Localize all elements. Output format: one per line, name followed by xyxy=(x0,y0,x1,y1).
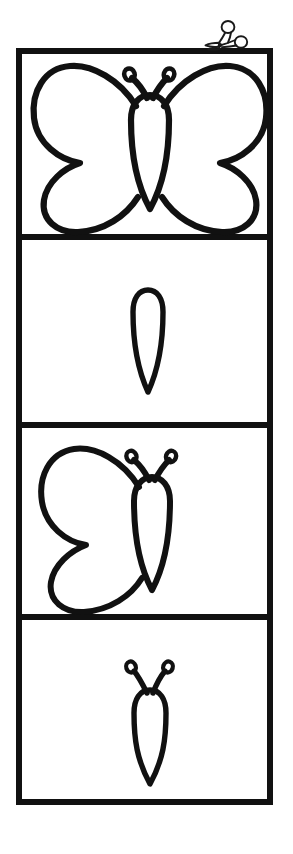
butterfly-body xyxy=(134,690,166,784)
left-antenna-tip xyxy=(125,449,138,463)
left-wing-outline xyxy=(34,66,138,232)
worksheet-page: Butterfly Cut-Out Worksheet xyxy=(0,0,293,854)
right-antenna-tip xyxy=(162,67,176,82)
left-antenna-tip xyxy=(125,660,138,674)
left-antenna xyxy=(134,460,149,480)
butterfly-body xyxy=(131,95,169,209)
left-wing-outline xyxy=(41,449,142,612)
butterfly-body xyxy=(134,477,170,590)
scissors-icon xyxy=(206,21,248,50)
panel-body-with-antennae xyxy=(125,660,175,784)
butterfly-body xyxy=(133,290,163,392)
left-antenna-tip xyxy=(123,67,137,82)
panel-full-butterfly xyxy=(34,66,267,232)
right-antenna xyxy=(153,671,165,693)
panel-body-only xyxy=(133,290,163,392)
left-antenna xyxy=(134,671,147,693)
right-antenna-tip xyxy=(162,660,175,674)
right-wing-outline xyxy=(162,66,266,232)
panel-half-butterfly xyxy=(41,449,177,612)
worksheet-canvas xyxy=(0,0,293,854)
right-antenna-tip xyxy=(164,449,177,463)
